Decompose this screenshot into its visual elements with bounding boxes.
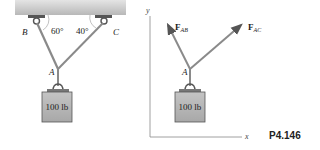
angle-b-label: 60° <box>51 26 64 36</box>
angle-c-label: 40° <box>76 26 89 36</box>
left-panel: 100 lb B C A 60° 40° <box>15 0 126 122</box>
point-c-label: C <box>113 27 120 37</box>
weight-label-fbd: 100 lb <box>179 102 202 112</box>
y-axis-label: y <box>145 6 150 15</box>
point-b-label: B <box>22 27 28 37</box>
right-panel: y x 100 lb A FAB FAC <box>145 6 262 141</box>
force-ac-label: FAC <box>248 22 262 33</box>
point-a-label-fbd: A <box>181 67 188 77</box>
x-axis-label: x <box>244 132 249 141</box>
weight-label: 100 lb <box>46 102 69 112</box>
statics-diagram: 100 lb B C A 60° 40° y x 100 lb A FAB FA… <box>0 0 320 150</box>
force-ac-arrow <box>190 25 241 69</box>
bracket-b-icon <box>28 15 45 24</box>
ceiling <box>15 0 126 15</box>
bracket-c-icon <box>95 15 112 24</box>
problem-number: P4.146 <box>269 130 301 141</box>
point-a-label: A <box>48 67 55 77</box>
force-ab-label: FAB <box>175 22 188 33</box>
